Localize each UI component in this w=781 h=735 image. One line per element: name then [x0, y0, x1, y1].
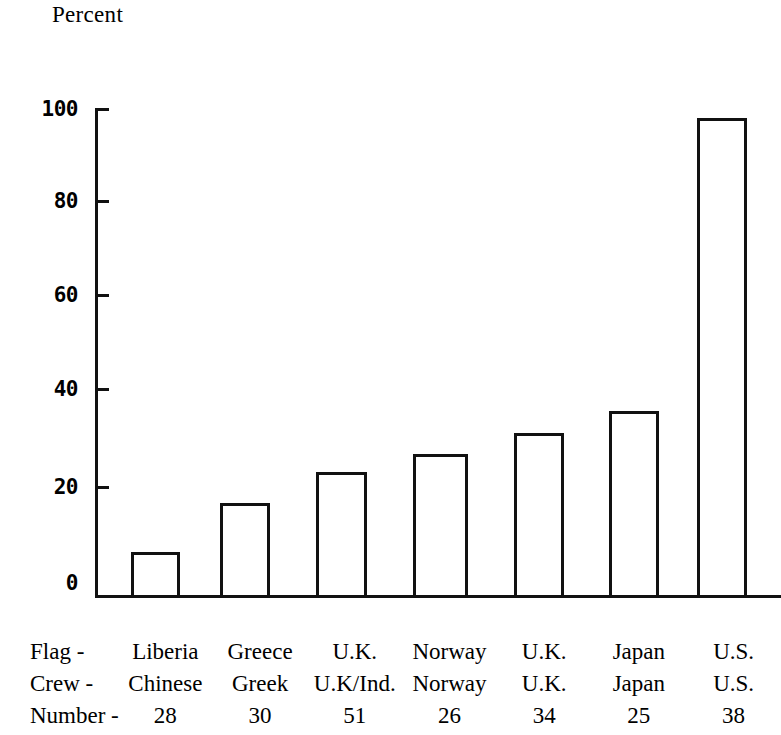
cell-crew-6: U.S. [686, 668, 781, 700]
cell-number-4: 34 [497, 700, 592, 732]
y-tick-80 [98, 200, 109, 203]
bar-liberia [131, 552, 180, 596]
cell-flag-4: U.K. [497, 636, 592, 668]
y-tick-100 [98, 108, 109, 111]
y-tick-label-100: 100 [22, 97, 78, 121]
y-tick-60 [98, 294, 109, 297]
y-tick-label-60: 60 [22, 283, 78, 307]
bar-norway [413, 454, 468, 596]
cell-crew-3: Norway [402, 668, 497, 700]
cell-number-3: 26 [402, 700, 497, 732]
cell-crew-2: U.K/Ind. [307, 668, 402, 700]
row-label-crew: Crew - [0, 668, 118, 700]
row-label-flag: Flag - [0, 636, 118, 668]
cell-crew-5: Japan [592, 668, 687, 700]
y-tick-label-40: 40 [22, 377, 78, 401]
cell-flag-2: U.K. [307, 636, 402, 668]
cell-crew-1: Greek [213, 668, 308, 700]
row-label-number: Number - [0, 700, 118, 732]
cell-flag-6: U.S. [686, 636, 781, 668]
bar-greece [220, 503, 270, 596]
cell-flag-1: Greece [213, 636, 308, 668]
cell-number-1: 30 [213, 700, 308, 732]
cell-flag-5: Japan [592, 636, 687, 668]
plot-area: 100 80 60 40 20 0 [0, 0, 781, 620]
y-axis-line [95, 108, 98, 597]
cell-flag-3: Norway [402, 636, 497, 668]
cell-number-0: 28 [118, 700, 213, 732]
bar-uk-ind [316, 472, 367, 596]
cell-crew-0: Chinese [118, 668, 213, 700]
cell-number-5: 25 [592, 700, 687, 732]
bar-japan [609, 411, 659, 596]
y-tick-40 [98, 388, 109, 391]
cell-number-6: 38 [686, 700, 781, 732]
table-row-number: Number - 28 30 51 26 34 25 38 [0, 700, 781, 732]
y-tick-label-20: 20 [22, 475, 78, 499]
cell-flag-0: Liberia [118, 636, 213, 668]
category-label-table: Flag - Liberia Greece U.K. Norway U.K. J… [0, 636, 781, 735]
cell-number-2: 51 [307, 700, 402, 732]
cell-crew-4: U.K. [497, 668, 592, 700]
bar-uk [514, 433, 564, 596]
bar-us [697, 118, 747, 596]
y-tick-20 [98, 486, 109, 489]
y-tick-label-80: 80 [22, 189, 78, 213]
bar-chart: Percent 100 80 60 40 20 0 Flag - L [0, 0, 781, 735]
y-tick-label-0: 0 [22, 571, 78, 595]
table-row-flag: Flag - Liberia Greece U.K. Norway U.K. J… [0, 636, 781, 668]
table-row-crew: Crew - Chinese Greek U.K/Ind. Norway U.K… [0, 668, 781, 700]
